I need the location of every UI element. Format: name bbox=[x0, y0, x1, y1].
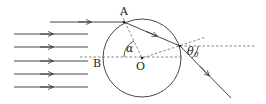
label-b: B bbox=[93, 57, 101, 70]
label-a: A bbox=[119, 5, 129, 18]
label-alpha: α bbox=[126, 42, 134, 55]
exit-point-dot bbox=[179, 45, 181, 47]
label-theta-subscript: 0 bbox=[194, 51, 199, 59]
point-a-dot bbox=[123, 21, 126, 24]
incident-rays bbox=[14, 22, 124, 87]
sphere-refraction-diagram: A B O α θ 0 bbox=[0, 0, 266, 104]
label-theta: θ bbox=[187, 45, 194, 58]
label-o: O bbox=[136, 60, 145, 73]
point-o-dot bbox=[141, 57, 143, 59]
